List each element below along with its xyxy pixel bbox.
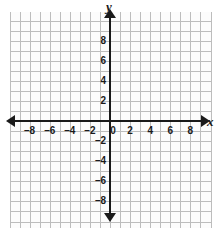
origin-label: 0 <box>104 126 122 136</box>
x-tick-label: 4 <box>141 126 159 136</box>
x-tick-label: –4 <box>61 126 79 136</box>
y-tick-label: 4 <box>88 76 106 86</box>
y-tick-label: 6 <box>88 56 106 66</box>
x-axis-line <box>12 120 204 122</box>
x-axis-left-arrowhead <box>6 115 15 127</box>
y-axis-down-arrowhead <box>104 213 116 222</box>
x-tick-label: 2 <box>121 126 139 136</box>
y-axis-line <box>109 16 111 216</box>
y-tick-label: 2 <box>88 96 106 106</box>
x-tick-label: –8 <box>21 126 39 136</box>
y-tick-label: –6 <box>88 176 106 186</box>
x-tick-label: 8 <box>181 126 199 136</box>
y-tick-label: –8 <box>88 196 106 206</box>
coordinate-plane-figure: –8–6–4–22468 8642–2–4–6–8 0 x y <box>0 0 222 234</box>
y-tick-label: 8 <box>88 36 106 46</box>
x-tick-label: –6 <box>41 126 59 136</box>
y-tick-label: –2 <box>88 136 106 146</box>
y-tick-label: –4 <box>88 156 106 166</box>
x-axis-name: x <box>207 115 214 128</box>
x-tick-label: 6 <box>161 126 179 136</box>
y-axis-name: y <box>106 0 112 13</box>
